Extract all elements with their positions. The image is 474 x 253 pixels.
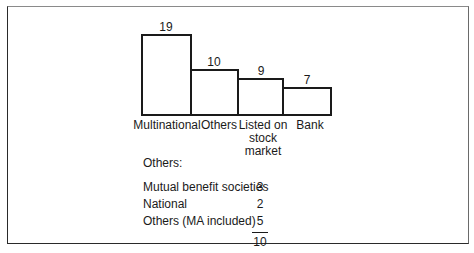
- category-label-multinational: Multinational: [128, 119, 206, 132]
- bar-value-listed: 9: [236, 64, 286, 78]
- category-label-listed-line2: stock market: [233, 132, 293, 158]
- breakdown-heading: Others:: [143, 156, 182, 170]
- category-label-bank: Bank: [290, 119, 330, 132]
- category-label-listed: Listed on stock market: [233, 119, 293, 158]
- bar-value-bank: 7: [282, 73, 332, 87]
- bar-listed-on-stock-market: [237, 78, 284, 116]
- breakdown-value-mutual: 3: [250, 180, 270, 194]
- bar-bank: [282, 87, 332, 116]
- breakdown-label-others-ma: Others (MA included): [143, 214, 256, 228]
- bar-value-multinational: 19: [141, 20, 191, 34]
- breakdown-total: 10: [250, 235, 270, 249]
- bar-multinational: [141, 34, 192, 116]
- breakdown-value-national: 2: [250, 197, 270, 211]
- bar-others: [190, 69, 239, 116]
- breakdown-label-national: National: [143, 197, 187, 211]
- sum-rule: [252, 232, 268, 233]
- bar-value-others: 10: [189, 55, 239, 69]
- breakdown-value-others-ma: 5: [250, 214, 270, 228]
